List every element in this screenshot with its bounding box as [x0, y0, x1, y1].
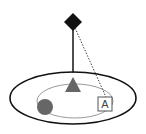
- dotted-connector-line: [75, 28, 106, 97]
- square-label: A: [101, 98, 109, 110]
- diagram-canvas: A: [0, 0, 146, 134]
- diamond-node-icon: [64, 13, 82, 31]
- circle-node-icon: [37, 99, 53, 115]
